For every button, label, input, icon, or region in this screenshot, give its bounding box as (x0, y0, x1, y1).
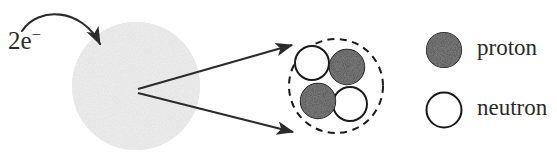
nucleon-neutron-top-left (295, 46, 329, 80)
electron-cloud (72, 22, 200, 150)
electron-charge-sign: − (32, 25, 42, 44)
electron-count-label: 2e− (8, 26, 41, 53)
legend-label-neutron: neutron (477, 96, 547, 119)
nucleus-detail (289, 39, 383, 133)
diagram-canvas (0, 0, 557, 163)
nucleon-proton-top-right (330, 50, 365, 85)
legend-marker-neutron (427, 93, 462, 128)
legend-marker-proton (427, 33, 462, 68)
legend-label-proton: proton (477, 36, 537, 59)
nucleon-neutron-bottom-right (333, 87, 367, 121)
atomic-structure-figure: 2e− proton neutron (0, 0, 557, 163)
nucleon-proton-bottom-left (301, 84, 336, 119)
electron-count-text: 2e (8, 27, 32, 54)
